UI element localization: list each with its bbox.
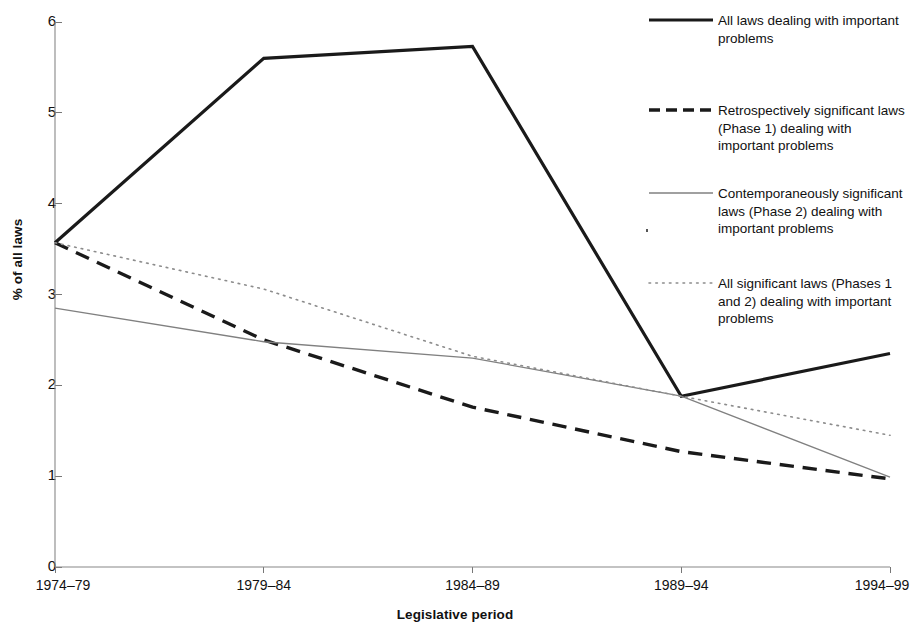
- legend-swatch-solid-icon: [648, 12, 714, 28]
- legend-swatch-dotted-icon: [648, 275, 714, 291]
- legend-swatch-dashed-icon: [648, 102, 714, 118]
- stray-speck: [646, 229, 648, 232]
- legend-item-0[interactable]: All laws dealing with important problems: [648, 12, 906, 47]
- legend-label-1: Retrospectively significant laws (Phase …: [718, 102, 906, 155]
- series-line-2: [55, 308, 890, 477]
- legend-swatch-solid-icon: [648, 185, 714, 201]
- legend-label-0: All laws dealing with important problems: [718, 12, 906, 47]
- legend-label-3: All significant laws (Phases 1 and 2) de…: [718, 275, 906, 328]
- legend-item-1[interactable]: Retrospectively significant laws (Phase …: [648, 102, 906, 155]
- legend-item-2[interactable]: Contemporaneously significant laws (Phas…: [648, 185, 906, 238]
- line-chart: % of all laws 6543210 1974–791979–841984…: [0, 0, 910, 635]
- legend-item-3[interactable]: All significant laws (Phases 1 and 2) de…: [648, 275, 906, 328]
- legend-label-2: Contemporaneously significant laws (Phas…: [718, 185, 906, 238]
